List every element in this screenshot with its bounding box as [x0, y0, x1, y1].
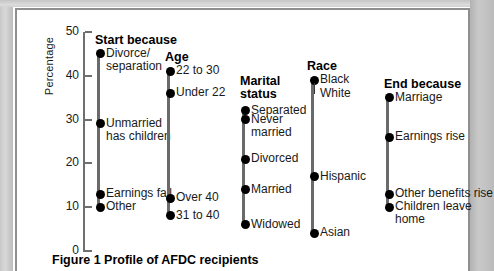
data-point-label: Unmarriedhas children: [106, 117, 171, 143]
data-point-dot[interactable]: [96, 119, 105, 128]
data-point-dot[interactable]: [310, 172, 319, 181]
y-axis-tick-label: 20: [53, 155, 79, 169]
y-axis-tick-mark: [85, 31, 92, 33]
page-edge-right-shadow: [470, 0, 494, 271]
data-point-dot[interactable]: [166, 67, 175, 76]
y-axis-line: [83, 32, 85, 252]
data-point-label: Black: [320, 73, 349, 86]
dot-plot-chart: Percentage 01020304050 Start becauseDivo…: [15, 8, 470, 271]
data-point-dot[interactable]: [166, 194, 175, 203]
data-point-label: Under 22: [176, 86, 225, 99]
figure-page: Percentage 01020304050 Start becauseDivo…: [0, 0, 494, 271]
y-axis-tick-mark: [85, 250, 92, 252]
data-point-dot[interactable]: [96, 49, 105, 58]
data-point-label: Children leavehome: [395, 200, 472, 226]
data-point-label: Earnings rise: [395, 130, 465, 143]
page-edge-top-shadow: [0, 0, 494, 7]
data-point-label: White: [320, 87, 351, 100]
data-point-dot[interactable]: [96, 203, 105, 212]
data-point-label: Other benefits rise: [395, 187, 493, 200]
data-point-label: Nevermarried: [251, 113, 292, 139]
data-point-dot[interactable]: [385, 190, 394, 199]
data-point-label: Over 40: [176, 191, 219, 204]
y-axis-tick-label: 30: [53, 112, 79, 126]
chart-group-stem: [311, 80, 314, 233]
y-axis-tick-mark: [85, 162, 92, 164]
data-point-dot[interactable]: [385, 133, 394, 142]
data-point-label: Married: [251, 183, 292, 196]
data-point-label: Marriage: [395, 91, 442, 104]
data-point-dot[interactable]: [166, 89, 175, 98]
figure-caption: Figure 1 Profile of AFDC recipients: [52, 253, 259, 267]
data-point-dot[interactable]: [385, 93, 394, 102]
chart-group-stem: [242, 111, 245, 225]
data-point-label: Widowed: [251, 218, 300, 231]
data-point-dot[interactable]: [241, 115, 250, 124]
data-point-dot[interactable]: [241, 185, 250, 194]
data-point-label: 22 to 30: [176, 64, 219, 77]
chart-group-title: Maritalstatus: [240, 75, 280, 102]
leader-line: [314, 83, 315, 94]
y-axis-tick-label: 40: [53, 68, 79, 82]
data-point-dot[interactable]: [96, 190, 105, 199]
y-axis-tick-mark: [85, 206, 92, 208]
data-point-label: Earnings fall: [106, 187, 172, 200]
data-point-dot[interactable]: [241, 220, 250, 229]
data-point-dot[interactable]: [241, 155, 250, 164]
chart-group-stem: [97, 54, 100, 207]
y-axis-tick-mark: [85, 75, 92, 77]
data-point-label: Asian: [320, 226, 350, 239]
data-point-label: Divorced: [251, 152, 298, 165]
data-point-label: Divorce/separation: [106, 47, 162, 73]
data-point-dot[interactable]: [385, 203, 394, 212]
data-point-dot[interactable]: [166, 211, 175, 220]
data-point-label: Hispanic: [320, 170, 366, 183]
y-axis-tick-mark: [85, 119, 92, 121]
page-edge-left-shadow: [0, 0, 13, 271]
y-axis-tick-label: 10: [53, 199, 79, 213]
y-axis-tick-label: 50: [53, 24, 79, 38]
data-point-label: 31 to 40: [176, 209, 219, 222]
y-axis-title: Percentage: [43, 26, 55, 106]
data-point-dot[interactable]: [241, 106, 250, 115]
data-point-label: Other: [106, 200, 136, 213]
data-point-dot[interactable]: [310, 229, 319, 238]
